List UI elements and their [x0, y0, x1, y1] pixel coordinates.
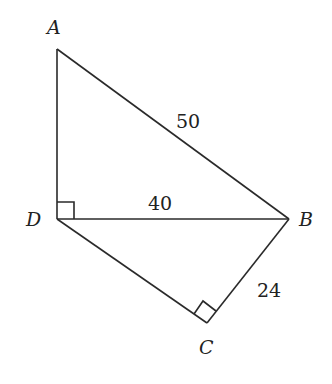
geometry-diagram: A D B C 50 40 24: [0, 0, 332, 384]
segment-CB: [207, 219, 289, 323]
vertex-label-A: A: [45, 16, 61, 38]
length-label-AB: 50: [176, 110, 200, 132]
vertex-label-D: D: [25, 208, 41, 230]
vertex-label-C: C: [199, 336, 214, 358]
right-angle-marker-C: [194, 301, 216, 314]
segment-DC: [57, 219, 207, 323]
right-angle-marker-D: [57, 202, 74, 219]
length-label-CB: 24: [257, 279, 281, 301]
segment-AB: [57, 49, 289, 219]
length-label-DB: 40: [148, 192, 172, 214]
vertex-label-B: B: [298, 208, 313, 230]
